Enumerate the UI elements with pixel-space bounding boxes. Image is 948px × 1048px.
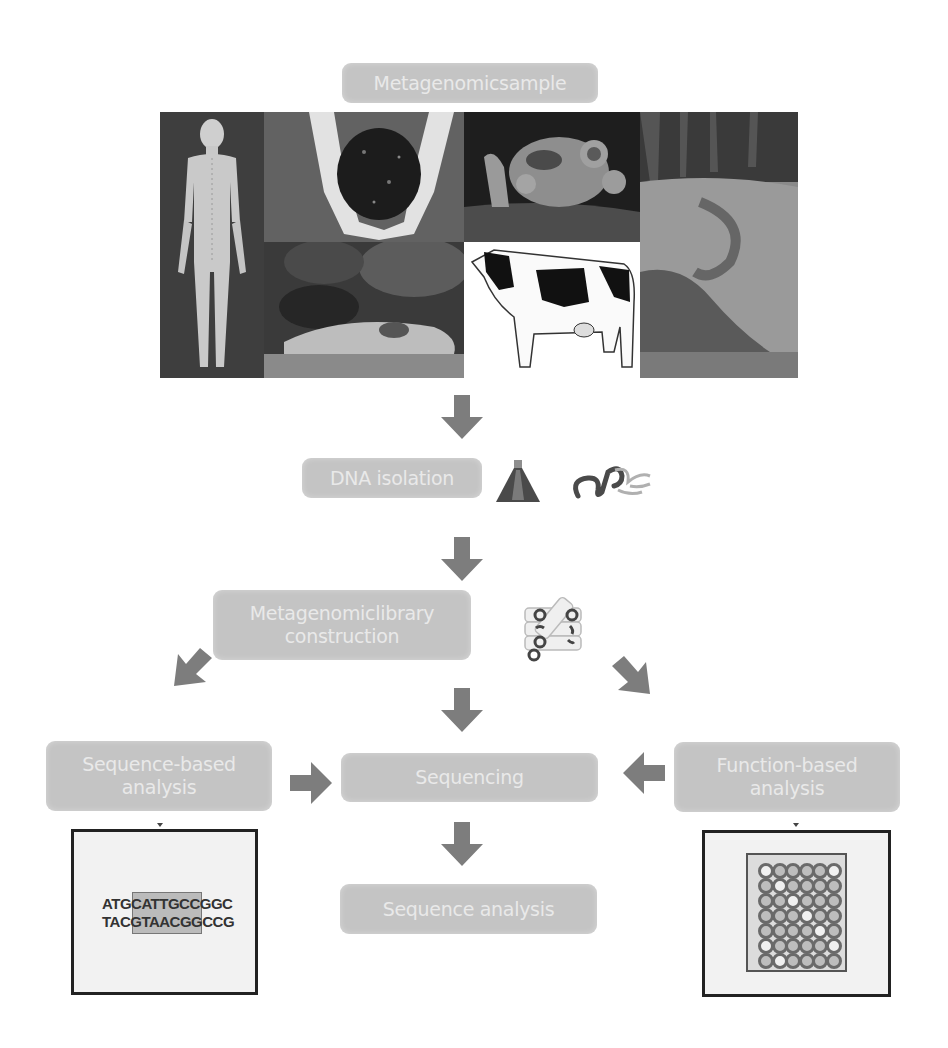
dna-isolation-box: DNA isolation [302, 458, 482, 498]
left-arrow [623, 752, 665, 794]
library-label-line1: Metagenomiclibrary [250, 602, 435, 625]
sequence-based-label-line1: Sequence-based [82, 753, 236, 776]
sequence-line-1: ATGCATTGCCGGC [102, 894, 232, 913]
library-construction-box: Metagenomiclibrary construction [213, 590, 471, 660]
function-based-analysis-box: Function-based analysis [674, 742, 900, 812]
down-arrow-4 [441, 822, 483, 866]
human-body-image [160, 112, 264, 378]
function-based-label-line2: analysis [750, 777, 825, 800]
sequence-alignment-panel: ATGCATTGCCGGC TACGTAACGGCCG [71, 829, 258, 995]
microbial-biofilm-image [464, 112, 640, 242]
plate-well [826, 908, 842, 924]
metagenomic-sample-box: Metagenomicsample [342, 63, 598, 103]
plate-well [826, 893, 842, 909]
plate-well [826, 938, 842, 954]
down-arrow-2 [441, 537, 483, 581]
right-arrow [290, 762, 332, 804]
down-left-arrow [174, 648, 214, 686]
library-plates-icon [520, 590, 582, 664]
sequencing-label: Sequencing [415, 766, 523, 789]
soil-in-hands-image [264, 112, 464, 242]
river-sediment-image [640, 112, 798, 378]
sequence-analysis-label: Sequence analysis [383, 898, 555, 921]
cow-image [464, 242, 640, 378]
sample-collage [160, 112, 798, 378]
dna-isolation-label: DNA isolation [330, 467, 454, 490]
sequence-based-analysis-box: Sequence-based analysis [46, 741, 272, 811]
plate-well [826, 923, 842, 939]
down-arrow-3 [441, 688, 483, 732]
flask-icon [494, 460, 542, 502]
plate-well [826, 878, 842, 894]
plate-well [826, 863, 842, 879]
sequence-based-label-line2: analysis [122, 776, 197, 799]
metagenomic-sample-label: Metagenomicsample [374, 72, 567, 95]
plate-well [826, 953, 842, 969]
sequence-line-2: TACGTAACGGCCG [102, 912, 234, 931]
sequencing-box: Sequencing [341, 753, 598, 802]
sequence-panel-pointer [157, 823, 163, 827]
function-based-label-line1: Function-based [717, 754, 858, 777]
sequence-analysis-box: Sequence analysis [340, 884, 597, 934]
down-right-arrow [610, 656, 650, 694]
animal-burrow-image [264, 242, 464, 378]
microplate-panel [702, 830, 891, 997]
library-label-line2: construction [285, 625, 400, 648]
dna-strand-icon [570, 462, 660, 500]
microplate [746, 853, 847, 972]
plate-panel-pointer [793, 823, 799, 827]
down-arrow-1 [441, 395, 483, 439]
